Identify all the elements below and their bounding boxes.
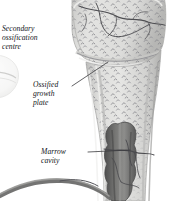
nutrient-vessel (0, 179, 110, 198)
secondary-centre-fragment (0, 55, 19, 97)
bone-anatomy-figure: Secondary ossification centre Ossified g… (0, 0, 180, 201)
label-marrow-cavity: Marrow cavity (41, 147, 89, 165)
label-secondary-ossification-centre: Secondary ossification centre (2, 24, 58, 52)
label-ossified-growth-plate: Ossified growth plate (33, 80, 79, 108)
